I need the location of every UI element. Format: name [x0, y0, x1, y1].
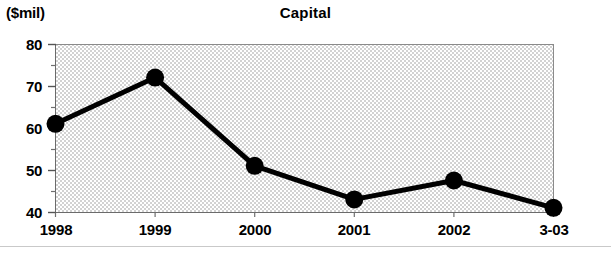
data-point-2000 — [246, 157, 264, 175]
y-tick-label-60: 60 — [10, 120, 42, 137]
line-chart-svg — [0, 0, 611, 254]
data-point-3-03 — [545, 199, 563, 217]
x-tick-label-3-03: 3-03 — [519, 221, 589, 238]
x-tick-label-2001: 2001 — [319, 221, 389, 238]
bottom-divider — [0, 246, 611, 247]
x-tick-label-2002: 2002 — [419, 221, 489, 238]
chart-container: ($mil) Capital — [0, 0, 611, 254]
x-tick-label-2000: 2000 — [220, 221, 290, 238]
y-tick-label-40: 40 — [10, 204, 42, 221]
y-tick-label-50: 50 — [10, 162, 42, 179]
data-point-1999 — [146, 69, 164, 87]
data-point-2001 — [345, 190, 363, 208]
y-tick-label-80: 80 — [10, 36, 42, 53]
data-point-2002 — [445, 172, 463, 190]
x-tick-label-1998: 1998 — [21, 221, 91, 238]
x-axis-ticks — [56, 213, 554, 218]
plot-area: 80 70 60 50 40 1998 1999 2000 2001 2002 … — [0, 0, 611, 254]
data-point-1998 — [47, 115, 65, 133]
y-tick-label-70: 70 — [10, 78, 42, 95]
x-tick-label-1999: 1999 — [120, 221, 190, 238]
